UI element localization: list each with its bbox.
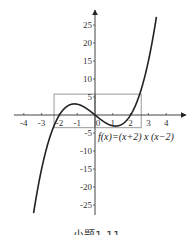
axes xyxy=(14,10,186,215)
y-tick-label: -25 xyxy=(80,200,92,210)
function-plot: -4-3-2-101234252015105-5-10-15-20-25 f(x… xyxy=(0,0,193,235)
function-label: f(x)=(x+2) x (x−2) xyxy=(98,131,174,143)
x-tick-label: 2 xyxy=(128,118,133,128)
y-tick-label: -10 xyxy=(80,146,92,156)
y-tick-label: 5 xyxy=(88,92,93,102)
y-tick-label: 20 xyxy=(83,38,93,48)
y-tick-label: -15 xyxy=(80,164,92,174)
y-tick-label: 25 xyxy=(83,20,93,30)
highlight-rect-2 xyxy=(95,94,141,127)
y-tick-label: -5 xyxy=(85,128,93,138)
x-tick-label: -3 xyxy=(38,118,46,128)
x-tick-label: -1 xyxy=(73,118,81,128)
figure-caption: 小题1-11 xyxy=(0,226,193,235)
x-tick-label: 4 xyxy=(164,118,169,128)
x-tick-label: 3 xyxy=(146,118,151,128)
x-tick-label: -4 xyxy=(20,118,28,128)
y-tick-label: 15 xyxy=(83,56,93,66)
y-tick-label: 10 xyxy=(83,74,93,84)
y-tick-label: -20 xyxy=(80,182,92,192)
